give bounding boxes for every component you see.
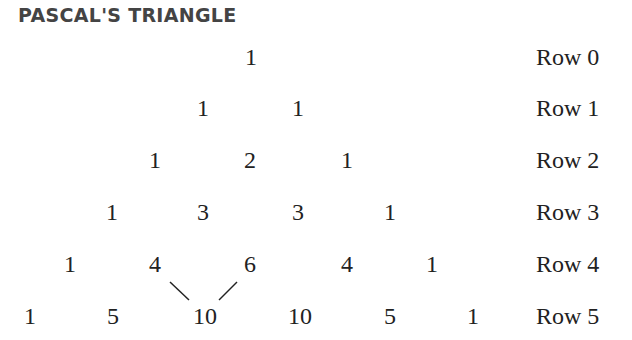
triangle-number: 1	[341, 147, 353, 174]
triangle-number: 3	[292, 199, 304, 226]
triangle-number: 1	[426, 251, 438, 278]
triangle-number: 1	[64, 251, 76, 278]
triangle-number: 6	[244, 251, 256, 278]
triangle-number: 1	[245, 44, 257, 71]
row-label: Row 0	[536, 44, 599, 71]
row-label: Row 1	[536, 95, 599, 122]
triangle-number: 4	[149, 251, 161, 278]
row-label: Row 3	[536, 199, 599, 226]
triangle-number: 1	[467, 303, 479, 330]
row-label: Row 2	[536, 147, 599, 174]
triangle-number: 5	[107, 303, 119, 330]
row-label: Row 4	[536, 251, 599, 278]
triangle-number: 1	[106, 199, 118, 226]
triangle-number: 2	[244, 147, 256, 174]
triangle-number: 1	[292, 95, 304, 122]
triangle-number: 4	[341, 251, 353, 278]
row-label: Row 5	[536, 303, 599, 330]
triangle-number: 1	[384, 199, 396, 226]
triangle-number: 3	[197, 199, 209, 226]
triangle-number: 1	[197, 95, 209, 122]
triangle-number: 1	[24, 303, 36, 330]
triangle-number: 5	[384, 303, 396, 330]
triangle-number: 10	[288, 303, 312, 330]
triangle-number: 1	[149, 147, 161, 174]
triangle-number: 10	[193, 303, 217, 330]
